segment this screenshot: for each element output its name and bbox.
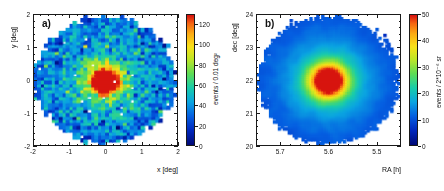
x-tickmark [377,142,378,146]
x-minor-tick-top [300,14,301,16]
y-tickmark-right [397,80,401,81]
x-tickmark-top [178,14,179,18]
y-tickmark-right [397,14,401,15]
heatmap-canvas-a [34,15,177,145]
colorbar-tickmark [195,146,198,147]
colorbar-tick-label: 80 [199,61,206,68]
y-tick-label: 24 [236,11,253,18]
y-minor-tick [256,73,258,74]
colorbar-tick-label: 30 [422,63,429,70]
x-tickmark-top [329,14,330,18]
x-minor-tick-top [91,14,92,16]
x-tickmark [280,142,281,146]
y-minor-tick-right [399,139,401,140]
y-minor-tick-right [399,106,401,107]
x-tickmark-top [280,14,281,18]
x-tick-label: 5.7 [276,148,285,155]
colorbar-tick-label: 40 [199,102,206,109]
y-minor-tick-right [399,120,401,121]
x-minor-tick-top [135,14,136,16]
colorbar-tickmark [418,14,421,15]
y-tickmark-right [397,113,401,114]
y-minor-tick [256,120,258,121]
x-minor-tick [156,144,157,146]
y-minor-tick-right [176,87,178,88]
y-minor-tick [256,93,258,94]
x-tickmark-top [377,14,378,18]
x-minor-tick [113,144,114,146]
x-minor-tick [48,144,49,146]
y-minor-tick [33,34,35,35]
x-minor-tick-top [290,14,291,16]
colorbar-tickmark [195,44,198,45]
x-minor-tick [135,144,136,146]
heatmap-canvas-b [257,15,400,145]
colorbar-tickmark [418,120,421,121]
y-minor-tick [33,100,35,101]
y-minor-tick-right [176,126,178,127]
x-minor-tick-top [164,14,165,16]
x-tickmark-top [142,14,143,18]
x-tick-label: 1 [140,148,144,155]
y-minor-tick-right [176,100,178,101]
x-minor-tick-top [48,14,49,16]
x-minor-tick-top [309,14,310,16]
y-minor-tick [33,60,35,61]
y-minor-tick [256,54,258,55]
y-minor-tick-right [399,67,401,68]
colorbar-tick-label: 100 [199,41,210,48]
panel-a: a) y [deg] x [deg] events / 0.01 deg² -2… [0,0,222,191]
y-tickmark [33,146,37,147]
y-tickmark [33,47,37,48]
y-tickmark-right [397,47,401,48]
y-minor-tick [256,34,258,35]
y-minor-tick-right [176,54,178,55]
x-minor-tick-top [149,14,150,16]
x-minor-tick [98,144,99,146]
x-tick-label: 2 [176,148,180,155]
colorbar-title-a: events / 0.01 deg² [212,53,219,105]
y-minor-tick [33,133,35,134]
y-minor-tick [256,126,258,127]
colorbar-tickmark [418,93,421,94]
y-minor-tick-right [399,27,401,28]
x-tick-label: 5.6 [324,148,333,155]
y-minor-tick [33,120,35,121]
x-tickmark-top [106,14,107,18]
y-tickmark [33,113,37,114]
y-minor-tick-right [176,21,178,22]
y-minor-tick-right [176,34,178,35]
y-tickmark-right [174,113,178,114]
y-minor-tick-right [176,27,178,28]
colorbar-tick-label: 0 [199,143,203,150]
x-minor-tick [91,144,92,146]
y-minor-tick-right [399,73,401,74]
y-minor-tick-right [176,67,178,68]
y-minor-tick-right [176,93,178,94]
y-minor-tick [33,93,35,94]
x-minor-tick-top [62,14,63,16]
colorbar-tick-label: 10 [422,116,429,123]
x-minor-tick [309,144,310,146]
colorbar-tickmark [195,65,198,66]
y-minor-tick-right [399,60,401,61]
y-minor-tick [33,106,35,107]
y-minor-tick [256,87,258,88]
x-minor-tick-top [156,14,157,16]
y-minor-tick-right [399,21,401,22]
x-tickmark [106,142,107,146]
colorbar-title-b: events / 2*10⁻⁶ sr [435,56,443,108]
x-minor-tick-top [98,14,99,16]
x-minor-tick-top [358,14,359,16]
y-minor-tick-right [399,34,401,35]
y-minor-tick [33,27,35,28]
x-tickmark [329,142,330,146]
y-tickmark-right [174,80,178,81]
y-tickmark [33,80,37,81]
x-minor-tick-top [77,14,78,16]
x-minor-tick [120,144,121,146]
y-minor-tick [256,106,258,107]
y-tickmark [256,14,260,15]
colorbar-a [186,14,195,146]
panel-label-b: b) [265,18,274,29]
